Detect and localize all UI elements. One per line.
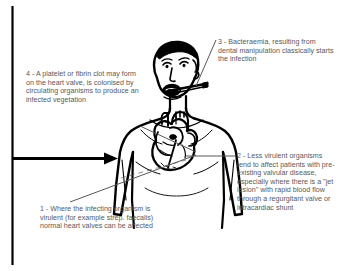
pupil-left xyxy=(166,65,169,69)
note-4-text: 4 - A platelet or fibrin clot may form o… xyxy=(26,70,140,104)
pupil-right xyxy=(183,64,186,68)
note-3-text: 3 - Bacteraemia, resulting from dental m… xyxy=(218,38,336,64)
diagram-canvas: 4 - A platelet or fibrin clot may form o… xyxy=(0,0,341,271)
note-2-text: 2 - Less virulent organisms tend to affe… xyxy=(237,152,338,212)
note-1-text: 1 - Where the infecting organism is viru… xyxy=(40,205,158,231)
valve-vegetation xyxy=(170,135,177,140)
